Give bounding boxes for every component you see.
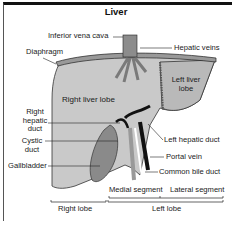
label-inferior-vena-cava: Inferior vena cava [48, 32, 108, 41]
label-left-lobe: Left lobe [152, 205, 181, 214]
label-cystic-duct: Cysticduct [18, 137, 46, 154]
label-right-hepatic-duct: Righthepaticduct [20, 108, 50, 134]
label-left-liver-lobe: Left liverlobe [168, 76, 204, 93]
label-left-hepatic-duct: Left hepatic duct [164, 136, 220, 145]
inferior-vena-cava-shape [123, 35, 137, 57]
label-hepatic-veins: Hepatic veins [174, 44, 220, 53]
label-portal-vein: Portal vein [166, 153, 202, 162]
label-diaphragm: Diaphragm [26, 48, 63, 57]
label-gallbladder: Gallbladder [8, 162, 47, 171]
label-medial-segment: Medial segment [109, 186, 163, 195]
label-lateral-segment: Lateral segment [170, 186, 224, 195]
label-right-lobe: Right lobe [58, 205, 92, 214]
label-common-bile-duct: Common bile duct [159, 168, 220, 177]
label-right-liver-lobe: Right liver lobe [62, 96, 115, 105]
lobe-brackets [51, 196, 223, 202]
